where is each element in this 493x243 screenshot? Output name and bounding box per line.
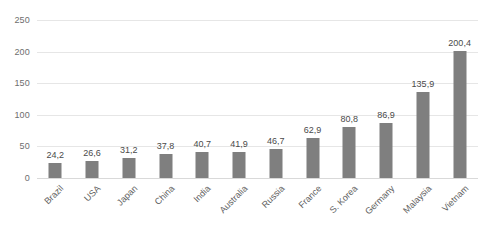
- x-axis-tick-label: USA: [83, 184, 102, 203]
- bar-group: 135,9: [405, 20, 442, 178]
- bar-value-label: 24,2: [35, 151, 75, 160]
- bar: [453, 51, 466, 178]
- y-axis-tick-label: 250: [4, 16, 30, 25]
- bar: [306, 138, 319, 178]
- bar: [343, 127, 356, 178]
- bar-group: 62,9: [294, 20, 331, 178]
- x-axis-label-slot: India: [184, 180, 221, 240]
- x-axis-label-slot: Brazil: [37, 180, 74, 240]
- y-axis-tick-label: 150: [4, 79, 30, 88]
- bar-value-label: 135,9: [403, 80, 443, 89]
- bar-value-label: 80,8: [329, 115, 369, 124]
- bar-value-label: 26,6: [72, 149, 112, 158]
- x-axis-tick-label: Brazil: [43, 184, 65, 206]
- bar: [380, 123, 393, 178]
- bar-value-label: 46,7: [256, 137, 296, 146]
- bar-group: 40,7: [184, 20, 221, 178]
- bar: [159, 154, 172, 178]
- y-axis-tick-label: 100: [4, 111, 30, 120]
- x-axis-label-slot: Malaysia: [405, 180, 442, 240]
- x-axis-label-slot: Vietnam: [441, 180, 478, 240]
- bar-group: 37,8: [147, 20, 184, 178]
- bar-group: 41,9: [221, 20, 258, 178]
- bar-value-label: 200,4: [440, 39, 480, 48]
- bar-group: 80,8: [331, 20, 368, 178]
- x-axis-tick-label: China: [153, 184, 176, 207]
- x-axis-tick-label: India: [193, 184, 213, 204]
- x-axis-label-slot: France: [294, 180, 331, 240]
- x-axis-label-slot: Australia: [221, 180, 258, 240]
- x-axis-tick-label: Japan: [116, 184, 140, 208]
- bar: [233, 152, 246, 178]
- x-axis-tick-label: Russia: [260, 184, 286, 210]
- bar-value-label: 31,2: [109, 146, 149, 155]
- x-axis-tick-label: Malaysia: [402, 184, 433, 215]
- x-axis-tick-label: Vietnam: [440, 184, 470, 214]
- x-axis-label-slot: USA: [74, 180, 111, 240]
- bar-value-label: 40,7: [182, 140, 222, 149]
- x-axis-tick-label: Germany: [364, 184, 397, 217]
- x-axis-label-slot: Japan: [111, 180, 148, 240]
- bar: [49, 163, 62, 178]
- y-axis-tick-label: 200: [4, 48, 30, 57]
- bar-value-label: 62,9: [293, 126, 333, 135]
- x-axis-tick-label: France: [297, 184, 323, 210]
- bar-group: 86,9: [368, 20, 405, 178]
- gridline: [37, 178, 478, 179]
- y-axis-tick-label: 0: [4, 174, 30, 183]
- x-axis-label-slot: S. Korea: [331, 180, 368, 240]
- bar: [86, 161, 99, 178]
- x-axis-label-slot: Russia: [258, 180, 295, 240]
- bar-group: 46,7: [258, 20, 295, 178]
- x-axis-labels: BrazilUSAJapanChinaIndiaAustraliaRussiaF…: [37, 180, 478, 243]
- bar-group: 200,4: [441, 20, 478, 178]
- bar: [122, 158, 135, 178]
- bars-layer: 24,226,631,237,840,741,946,762,980,886,9…: [37, 20, 478, 178]
- y-axis-tick-label: 50: [4, 142, 30, 151]
- bar-group: 24,2: [37, 20, 74, 178]
- bar: [416, 92, 429, 178]
- bar: [269, 149, 282, 179]
- x-axis-tick-label: S. Korea: [329, 184, 360, 215]
- bar-group: 31,2: [111, 20, 148, 178]
- bar-chart: 24,226,631,237,840,741,946,762,980,886,9…: [0, 0, 493, 243]
- bar-value-label: 41,9: [219, 140, 259, 149]
- bar-group: 26,6: [74, 20, 111, 178]
- bar-value-label: 37,8: [146, 142, 186, 151]
- x-axis-label-slot: Germany: [368, 180, 405, 240]
- bar-value-label: 86,9: [366, 111, 406, 120]
- x-axis-tick-label: Australia: [218, 184, 249, 215]
- bar: [196, 152, 209, 178]
- x-axis-label-slot: China: [147, 180, 184, 240]
